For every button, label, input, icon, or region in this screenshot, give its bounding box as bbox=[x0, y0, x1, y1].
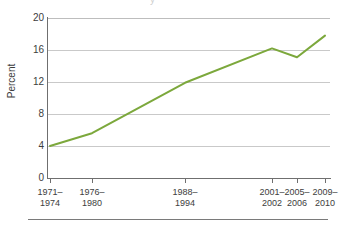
line-chart-figure: 20 16 12 8 4 0 Percent 1971– 1974 1976– … bbox=[0, 0, 348, 234]
series-line-percent bbox=[50, 36, 325, 146]
series-svg bbox=[0, 0, 348, 234]
bottom-rule bbox=[28, 219, 328, 220]
